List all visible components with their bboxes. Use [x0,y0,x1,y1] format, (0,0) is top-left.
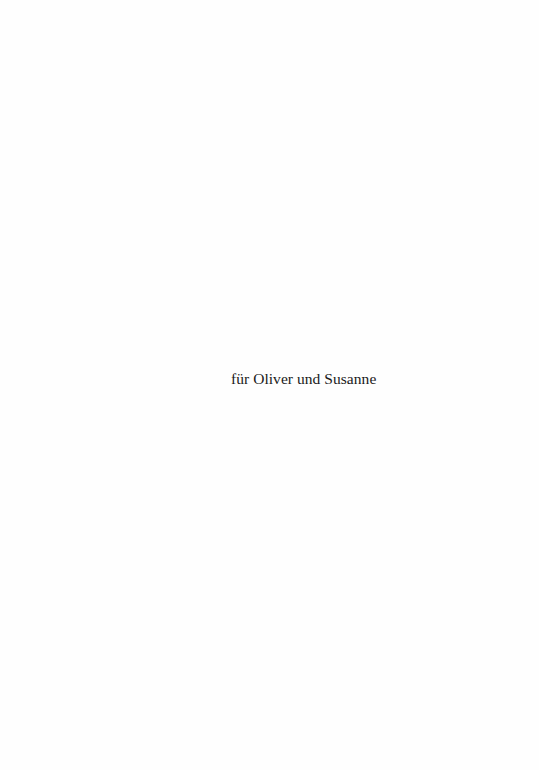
book-page: für Oliver und Susanne [0,0,539,770]
dedication-text: für Oliver und Susanne [231,369,376,389]
